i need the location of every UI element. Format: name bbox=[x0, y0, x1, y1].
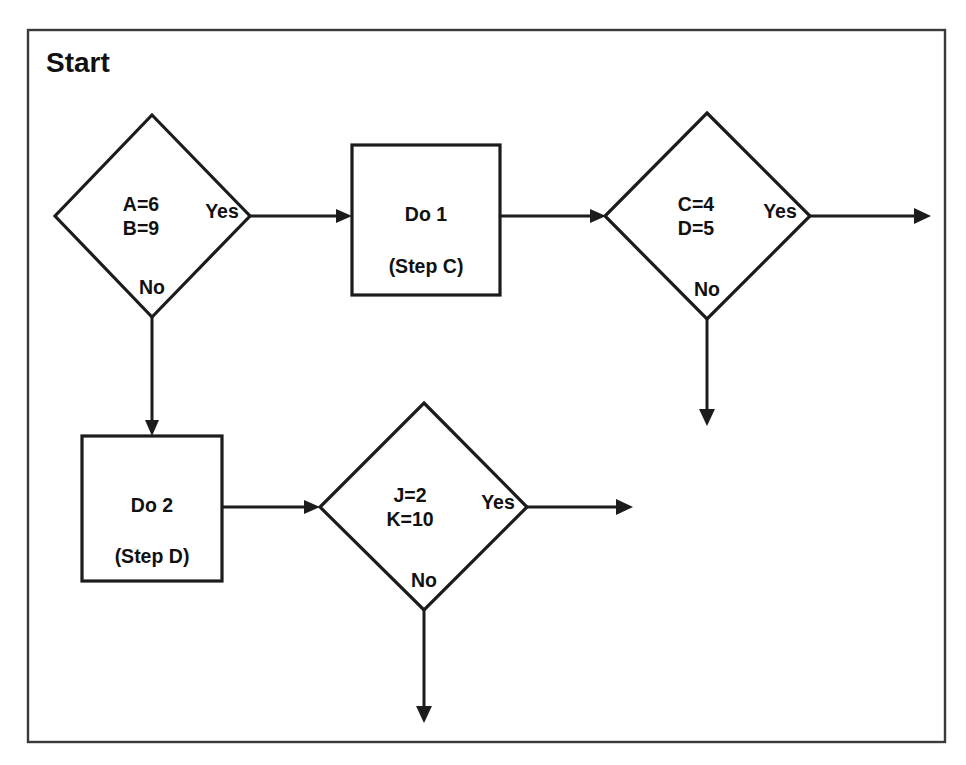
process-do2-line1: Do 2 bbox=[131, 494, 173, 516]
decision-ab-line2: B=9 bbox=[123, 217, 159, 239]
decision-jk-line2: K=10 bbox=[386, 508, 433, 530]
decision-cd-no-label: No bbox=[694, 278, 720, 300]
flowchart-page: Start A=6 B=9 Yes No Do 1 --> Do 2 --> D… bbox=[0, 0, 966, 765]
decision-ab-no-label: No bbox=[139, 276, 165, 298]
decision-jk-line1: J=2 bbox=[393, 484, 426, 506]
flowchart-canvas: Start A=6 B=9 Yes No Do 1 --> Do 2 --> D… bbox=[0, 0, 966, 765]
process-do1-line1: Do 1 bbox=[405, 203, 447, 225]
page-title: Start bbox=[46, 47, 110, 78]
decision-ab-line1: A=6 bbox=[123, 193, 159, 215]
decision-cd-line1: C=4 bbox=[678, 193, 714, 215]
decision-ab-yes-label: Yes bbox=[205, 200, 239, 222]
process-do1-line2: (Step C) bbox=[389, 255, 464, 277]
decision-cd-yes-label: Yes bbox=[763, 200, 797, 222]
decision-cd-line2: D=5 bbox=[678, 217, 714, 239]
process-do2-line2: (Step D) bbox=[115, 545, 190, 567]
decision-jk-no-label: No bbox=[411, 569, 437, 591]
decision-jk-yes-label: Yes bbox=[481, 491, 515, 513]
